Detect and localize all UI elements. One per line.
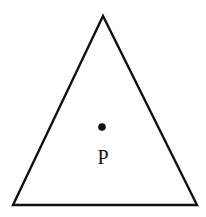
point-p-dot (98, 123, 106, 131)
point-p-label: P (97, 146, 108, 168)
diagram-canvas: P (0, 0, 206, 217)
triangle (13, 16, 197, 205)
